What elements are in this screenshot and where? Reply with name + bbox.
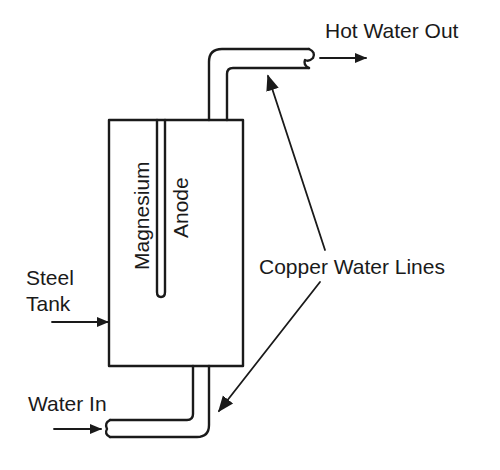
anode-label: Anode	[169, 177, 192, 238]
water-in-label: Water In	[28, 392, 107, 415]
steel-label: Steel	[26, 266, 74, 289]
magnesium-anode-rod	[157, 120, 165, 297]
hot-water-outlet-pipe	[209, 49, 314, 120]
cold-water-inlet-pipe	[106, 366, 209, 437]
copper-water-lines-label: Copper Water Lines	[259, 255, 445, 278]
tank-label: Tank	[26, 292, 71, 315]
hot-water-out-label: Hot Water Out	[325, 19, 459, 42]
copper-line-upper-pointer-arrow	[268, 76, 325, 250]
magnesium-label: Magnesium	[130, 161, 153, 270]
water-heater-diagram: Hot Water Out Copper Water Lines Steel T…	[0, 0, 500, 470]
copper-line-lower-pointer-arrow	[219, 282, 320, 411]
